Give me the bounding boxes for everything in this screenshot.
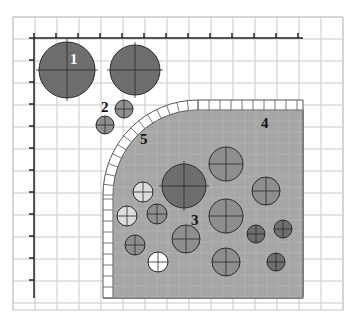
diagram-canvas: 1 2 3 4 5 bbox=[0, 0, 356, 330]
circle-c8 bbox=[147, 204, 167, 224]
circle-c1 bbox=[36, 39, 98, 101]
label-1: 1 bbox=[70, 51, 78, 67]
circle-c2 bbox=[107, 42, 163, 98]
circle-c6 bbox=[133, 182, 153, 202]
circle-c15 bbox=[274, 220, 292, 238]
label-3: 3 bbox=[191, 212, 199, 228]
circle-c16 bbox=[212, 248, 240, 276]
diagram-svg: 1 2 3 4 5 bbox=[0, 0, 356, 330]
circle-c3 bbox=[115, 100, 133, 118]
label-2: 2 bbox=[101, 99, 109, 115]
circle-c12 bbox=[172, 225, 200, 253]
label-5: 5 bbox=[140, 131, 148, 147]
circle-c11 bbox=[209, 199, 243, 233]
circle-c9 bbox=[209, 147, 243, 181]
circle-c4 bbox=[96, 116, 114, 134]
circle-c7 bbox=[117, 206, 137, 226]
circle-c13 bbox=[125, 235, 145, 255]
label-4: 4 bbox=[261, 115, 269, 131]
circle-c10 bbox=[252, 177, 280, 205]
circle-c17 bbox=[148, 252, 168, 272]
circle-c14 bbox=[247, 225, 265, 243]
circle-c18 bbox=[267, 253, 285, 271]
